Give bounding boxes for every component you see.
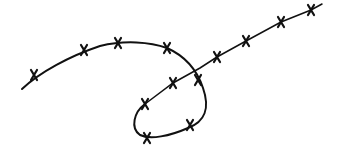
barb-icon	[142, 99, 148, 109]
barb-icon	[308, 5, 314, 15]
wire-arc	[22, 42, 206, 137]
wire-line	[145, 4, 322, 104]
barb-icon	[243, 36, 249, 46]
barb-icon	[31, 5, 314, 143]
barbed-wire-drawing	[0, 0, 340, 159]
barb-icon	[170, 78, 176, 88]
barb-icon	[187, 120, 193, 130]
barb-icon	[278, 17, 284, 27]
barb-icon	[214, 52, 220, 62]
